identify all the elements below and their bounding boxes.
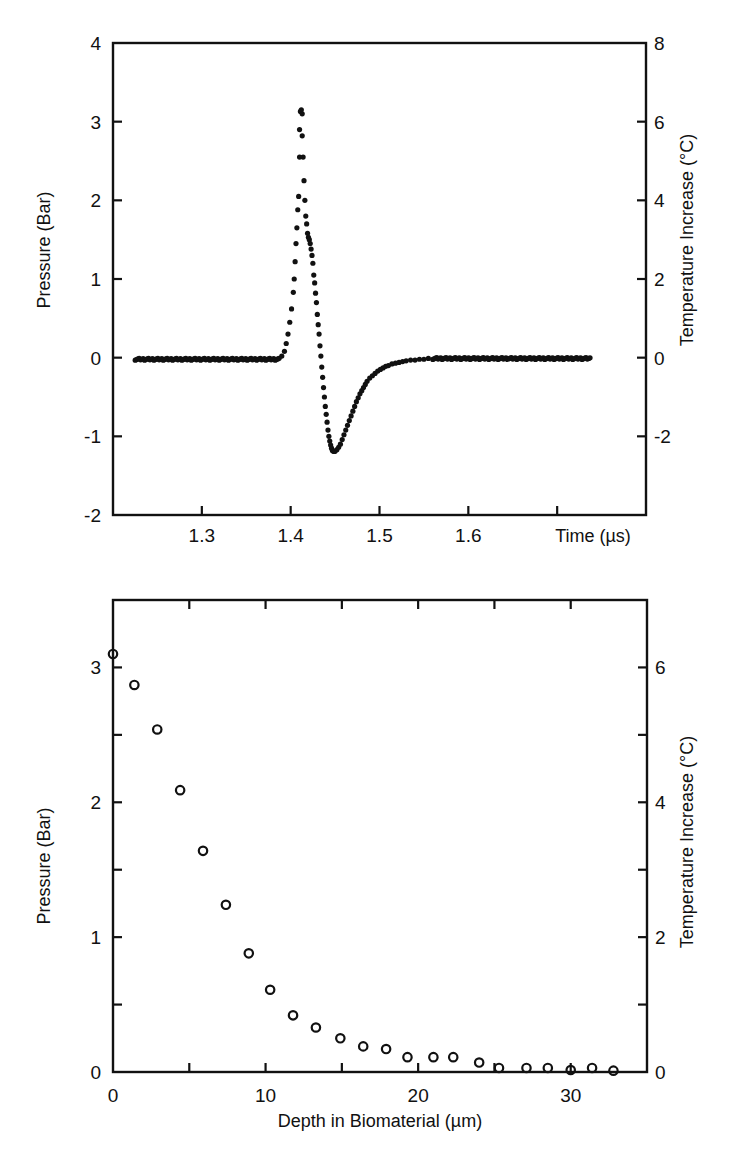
data-point — [300, 133, 305, 138]
y-right-tick-label: 4 — [654, 190, 665, 211]
y-axis-title: Pressure (Bar) — [34, 807, 54, 924]
data-point — [301, 178, 306, 183]
data-point — [315, 312, 320, 317]
tick-labels: 010203001230246 — [90, 657, 666, 1106]
data-point — [311, 272, 316, 277]
data-point — [285, 331, 290, 336]
x-tick-label: 1.5 — [366, 525, 392, 546]
data-point — [176, 786, 184, 794]
y-right-tick-label: 0 — [655, 1062, 666, 1083]
data-point — [301, 154, 306, 159]
figure: 1.31.41.51.6-2-101234-202468 Time (µs) P… — [0, 0, 745, 1174]
data-point — [153, 725, 161, 733]
plot-frame — [113, 43, 646, 515]
data-point — [300, 111, 305, 116]
data-point — [295, 207, 300, 212]
data-point — [338, 442, 343, 447]
axis-ticks — [113, 122, 646, 515]
data-point — [352, 404, 357, 409]
data-point — [359, 1042, 367, 1050]
data-point — [345, 423, 350, 428]
tick-labels: 1.31.41.51.6-2-101234-202468 — [84, 33, 671, 546]
data-point — [308, 241, 313, 246]
data-point — [296, 194, 301, 199]
data-point — [324, 412, 329, 417]
data-point — [312, 280, 317, 285]
data-point — [429, 1053, 437, 1061]
data-point — [408, 357, 413, 362]
data-point — [336, 1034, 344, 1042]
x-tick-label: 1.4 — [277, 525, 304, 546]
data-point — [348, 413, 353, 418]
data-point — [289, 1011, 297, 1019]
x-tick-label: 30 — [560, 1085, 581, 1106]
data-point — [321, 385, 326, 390]
data-point — [322, 394, 327, 399]
y-right-tick-label: 2 — [654, 269, 665, 290]
data-point — [324, 420, 329, 425]
data-points — [109, 650, 618, 1075]
data-point — [312, 1023, 320, 1031]
data-point — [289, 306, 294, 311]
data-point — [310, 261, 315, 266]
data-point — [403, 1053, 411, 1061]
data-point — [266, 986, 274, 994]
x-tick-label: 10 — [255, 1085, 276, 1106]
data-point — [475, 1058, 483, 1066]
data-point — [417, 357, 422, 362]
axis-ticks — [113, 600, 647, 1072]
y-tick-label: 3 — [90, 657, 101, 678]
data-point — [245, 949, 253, 957]
y-right-tick-label: 6 — [655, 657, 666, 678]
data-point — [282, 349, 287, 354]
data-point — [292, 276, 297, 281]
data-point — [316, 322, 321, 327]
x-tick-label: 20 — [408, 1085, 429, 1106]
data-point — [325, 427, 330, 432]
y-axis-right-title: Temperature Increase (°C) — [677, 134, 697, 346]
data-point — [302, 198, 307, 203]
y-tick-label: 4 — [90, 33, 101, 54]
data-point — [609, 1066, 617, 1074]
data-point — [279, 353, 284, 358]
y-right-tick-label: 6 — [654, 112, 665, 133]
data-point — [130, 681, 138, 689]
data-point — [421, 357, 426, 362]
data-point — [340, 437, 345, 442]
data-point — [294, 225, 299, 230]
y-right-tick-label: 2 — [655, 927, 666, 948]
data-point — [316, 331, 321, 336]
data-point — [293, 259, 298, 264]
data-point — [319, 365, 324, 370]
data-point — [343, 427, 348, 432]
y-tick-label: 0 — [90, 348, 101, 369]
data-point — [297, 127, 302, 132]
data-point — [326, 434, 331, 439]
data-point — [318, 353, 323, 358]
y-right-tick-label: 4 — [655, 792, 666, 813]
data-point — [347, 418, 352, 423]
y-axis-right-title: Temperature Increase (°C) — [677, 736, 697, 948]
y-tick-label: 1 — [90, 927, 101, 948]
data-point — [341, 432, 346, 437]
data-point — [314, 300, 319, 305]
pressure-depth-chart: 010203001230246 Depth in Biomaterial (µm… — [34, 600, 697, 1131]
x-axis-title: Time (µs) — [555, 526, 631, 546]
data-point — [284, 341, 289, 346]
data-point — [412, 357, 417, 362]
data-point — [308, 247, 313, 252]
y-tick-label: 2 — [90, 792, 101, 813]
data-point — [404, 358, 409, 363]
y-right-tick-label: 8 — [654, 33, 665, 54]
data-point — [287, 320, 292, 325]
x-tick-label: 1.3 — [189, 525, 215, 546]
data-point — [350, 409, 355, 414]
data-points — [133, 107, 593, 454]
x-tick-label: 0 — [108, 1085, 119, 1106]
data-point — [382, 1045, 390, 1053]
y-tick-label: 3 — [90, 112, 101, 133]
y-tick-label: -2 — [84, 505, 101, 526]
y-right-tick-label: -2 — [654, 426, 671, 447]
plot-frame — [113, 600, 647, 1072]
x-tick-label: 1.6 — [455, 525, 481, 546]
